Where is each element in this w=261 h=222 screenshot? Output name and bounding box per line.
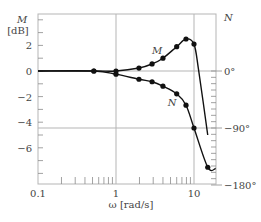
x-tick-label: 1: [113, 188, 119, 199]
x-tick-label: 0.1: [30, 188, 46, 199]
y-left-tick-label: 0: [26, 66, 32, 77]
y-right-tick-label: −90°: [224, 123, 250, 134]
data-point-m: [149, 61, 154, 66]
curve-label-n: N: [167, 97, 178, 108]
curves: [38, 36, 216, 170]
y-left-label-m: M: [16, 14, 28, 25]
y-left-tick-label: 2: [26, 40, 32, 51]
data-point-n: [160, 84, 165, 89]
y-right-label-n: N: [223, 12, 234, 23]
data-point-m: [191, 42, 196, 47]
y-right-tick-label: 0°: [224, 66, 235, 77]
curve-label-m: M: [151, 45, 163, 56]
x-tick-label: 10: [188, 188, 201, 199]
y-left-tick-label: −2: [17, 92, 32, 103]
data-point-m: [183, 36, 188, 41]
data-point-n: [149, 79, 154, 84]
curve-n: [38, 71, 216, 171]
axes: 0.111020−2−4−60°−90°−180°: [17, 14, 256, 199]
y-right-tick-label: −180°: [224, 180, 256, 191]
data-point-m: [136, 65, 141, 70]
data-point-n: [113, 72, 118, 77]
data-point-n: [136, 77, 141, 82]
x-axis-label: ω [rad/s]: [109, 199, 154, 210]
data-point-n: [91, 68, 96, 73]
data-point-m: [174, 44, 179, 49]
y-left-tick-label: −6: [17, 143, 32, 154]
data-point-n: [191, 125, 196, 130]
y-left-tick-label: −4: [17, 117, 32, 128]
data-point-n: [183, 103, 188, 108]
data-point-n: [205, 165, 210, 170]
bode-chart: 0.111020−2−4−60°−90°−180° M [dB] N ω [ra…: [0, 0, 261, 222]
y-left-label-unit: [dB]: [7, 25, 29, 36]
data-point-m: [160, 56, 165, 61]
curve-m: [38, 39, 208, 135]
data-point-n: [174, 91, 179, 96]
axis-labels: M [dB] N ω [rad/s] M N: [7, 12, 234, 210]
